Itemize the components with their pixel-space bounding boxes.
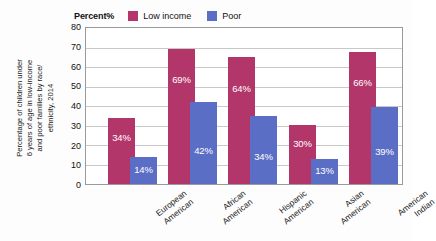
bar-label-low-income-african-american: 69% bbox=[168, 74, 195, 85]
bar-label-poor-asian-american: 13% bbox=[311, 165, 338, 176]
bar-poor-asian-american[interactable]: 13% bbox=[311, 159, 338, 184]
bar-label-poor-american-indian: 39% bbox=[371, 146, 398, 157]
y-axis-title-line-4: ethnicity, 2014 bbox=[45, 20, 55, 196]
y-tick-0: 0 bbox=[57, 180, 81, 190]
bar-label-low-income-asian-american: 30% bbox=[289, 138, 316, 149]
legend-item-low-income: Low income bbox=[128, 11, 191, 21]
y-tick-10: 10 bbox=[57, 160, 81, 170]
y-tick-60: 60 bbox=[57, 62, 81, 72]
legend-swatch-low-income bbox=[128, 11, 138, 21]
bar-label-poor-african-american: 42% bbox=[190, 145, 217, 156]
bar-group-hispanic-american: 64% 34% bbox=[228, 28, 277, 184]
bar-poor-hispanic-american[interactable]: 34% bbox=[250, 116, 277, 184]
bar-group-european-american: 34% 14% bbox=[108, 28, 157, 184]
chart-legend: Percent% Low income Poor bbox=[74, 9, 257, 23]
bar-label-low-income-hispanic-american: 64% bbox=[228, 83, 255, 94]
bar-label-low-income-european-american: 34% bbox=[108, 132, 135, 143]
x-axis-tick-labels: European American African American Hispa… bbox=[85, 186, 403, 241]
legend-swatch-poor bbox=[207, 11, 217, 21]
y-axis-title-line-1: Percentage of children under bbox=[15, 20, 25, 196]
bar-group-asian-american: 30% 13% bbox=[289, 28, 338, 184]
bar-poor-african-american[interactable]: 42% bbox=[190, 102, 217, 184]
bar-group-american-indian: 66% 39% bbox=[349, 28, 398, 184]
y-tick-20: 20 bbox=[57, 141, 81, 151]
legend-title: Percent% bbox=[74, 11, 114, 21]
y-tick-30: 30 bbox=[57, 121, 81, 131]
bar-poor-american-indian[interactable]: 39% bbox=[371, 107, 398, 184]
y-axis-tick-labels: 80 70 60 50 40 30 20 10 0 bbox=[57, 27, 81, 185]
y-tick-50: 50 bbox=[57, 81, 81, 91]
y-axis-title-line-2: 6 years of age in low-income bbox=[25, 20, 35, 196]
bar-label-poor-hispanic-american: 34% bbox=[250, 151, 277, 162]
bar-poor-european-american[interactable]: 14% bbox=[130, 157, 157, 184]
legend-item-poor: Poor bbox=[207, 11, 241, 21]
bar-label-low-income-american-indian: 66% bbox=[349, 77, 376, 88]
y-tick-80: 80 bbox=[57, 22, 81, 32]
y-tick-40: 40 bbox=[57, 101, 81, 111]
bar-label-poor-european-american: 14% bbox=[130, 164, 157, 175]
plot-area: 34% 14% 69% 42% 64% bbox=[85, 27, 403, 185]
y-tick-70: 70 bbox=[57, 42, 81, 52]
bar-group-african-american: 69% 42% bbox=[168, 28, 217, 184]
bar-series-container: 34% 14% 69% 42% 64% bbox=[86, 28, 402, 184]
legend-label-poor: Poor bbox=[222, 11, 241, 21]
y-axis-title-line-3: and poor families by race/ bbox=[35, 20, 45, 196]
legend-label-low-income: Low income bbox=[143, 11, 191, 21]
